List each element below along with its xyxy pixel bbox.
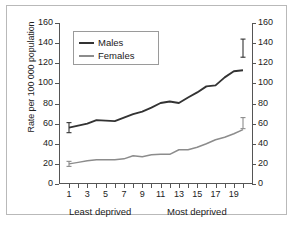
x-tick [69,184,70,188]
y-tick-label-right: 60 [258,119,284,128]
x-tick [124,184,125,188]
series-line-females [69,130,243,164]
x-tick [96,184,97,188]
y-tick-label-right: 20 [258,159,284,168]
x-tick [161,184,162,188]
y-tick-label-left: 80 [27,99,53,108]
x-tick [87,184,88,188]
x-tick [133,184,134,188]
y-tick-label-right: 160 [258,18,284,27]
x-tick-label: 17 [208,190,224,199]
y-tick-label-left: 120 [27,58,53,67]
y-tick-label-left: 160 [27,18,53,27]
x-tick-label: 9 [134,190,150,199]
y-tick-label-right: 100 [258,78,284,87]
y-tick-left [55,184,59,185]
y-tick-label-right: 40 [258,139,284,148]
chart-legend: Males Females [73,31,159,65]
x-tick [170,184,171,188]
x-tick-label: 3 [79,190,95,199]
series-line-males [69,70,243,127]
x-tick [216,184,217,188]
y-tick-label-left: 140 [27,38,53,47]
y-tick-label-right: 140 [258,38,284,47]
y-tick-label-right: 80 [258,99,284,108]
x-tick [206,184,207,188]
x-tick [179,184,180,188]
legend-label-females: Females [98,50,134,62]
x-tick-label: 19 [226,190,242,199]
x-tick-label: 13 [171,190,187,199]
x-tick [188,184,189,188]
x-tick-label: 11 [153,190,169,199]
x-tick-label: 1 [61,190,77,199]
error-bar-females [241,118,246,129]
y-tick-label-left: 0 [27,179,53,188]
x-tick [243,184,244,188]
x-tick-label: 15 [189,190,205,199]
x-tick [142,184,143,188]
legend-swatch-males [79,42,94,44]
x-tick [78,184,79,188]
y-tick-right [252,184,256,185]
y-tick-label-left: 100 [27,78,53,87]
x-tick [234,184,235,188]
plot-area: 020406080100120140160 020406080100120140… [59,23,253,184]
error-bar-males [241,39,246,57]
chart-figure: Rate per 100 000 population 020406080100… [6,5,287,215]
annotation-least-deprived: Least deprived [69,206,131,217]
annotation-most-deprived: Most deprived [167,206,227,217]
y-tick-label-left: 20 [27,159,53,168]
y-tick-label-right: 0 [258,179,284,188]
x-tick-label: 7 [116,190,132,199]
x-tick [115,184,116,188]
x-tick [197,184,198,188]
y-tick-label-left: 60 [27,119,53,128]
x-tick-label: 5 [98,190,114,199]
x-tick [225,184,226,188]
y-tick-label-right: 120 [258,58,284,67]
y-tick-label-left: 40 [27,139,53,148]
legend-swatch-females [79,55,94,57]
legend-label-males: Males [98,37,123,49]
x-tick [106,184,107,188]
x-tick [151,184,152,188]
